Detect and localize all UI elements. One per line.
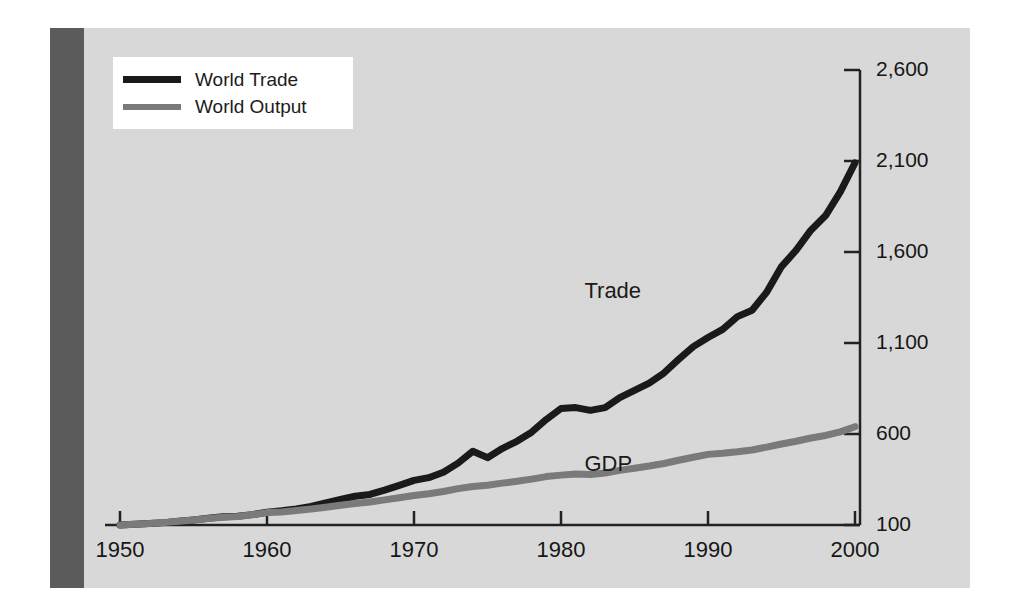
- x-tick-label-1980: 1980: [521, 539, 601, 561]
- series-line-world-trade: [120, 163, 855, 525]
- y-tick-label-600: 600: [876, 422, 911, 443]
- y-axis-ticks: [844, 70, 860, 525]
- y-tick-label-1100: 1,100: [876, 331, 929, 352]
- y-tick-label-100: 100: [876, 513, 911, 534]
- y-tick-label-2100: 2,100: [876, 149, 929, 170]
- legend: World Trade World Output: [113, 57, 353, 129]
- x-tick-label-1960: 1960: [227, 539, 307, 561]
- series-line-world-output: [120, 427, 855, 525]
- y-tick-label-1600: 1,600: [876, 240, 929, 261]
- x-tick-label-1970: 1970: [374, 539, 454, 561]
- legend-label-world-trade: World Trade: [195, 70, 298, 90]
- y-tick-label-2600: 2,600: [876, 58, 929, 79]
- x-tick-label-1950: 1950: [80, 539, 160, 561]
- legend-swatch-world-trade: [123, 76, 181, 83]
- legend-item-world-trade: World Trade: [123, 66, 353, 93]
- data-series-group: [120, 163, 855, 525]
- annotation-trade: Trade: [584, 280, 641, 302]
- legend-label-world-output: World Output: [195, 97, 307, 117]
- annotation-gdp: GDP: [584, 453, 632, 475]
- legend-swatch-world-output: [123, 104, 181, 110]
- legend-item-world-output: World Output: [123, 93, 353, 120]
- x-tick-label-1990: 1990: [668, 539, 748, 561]
- chart-figure: 1006001,1001,6002,1002,600 1950196019701…: [50, 28, 970, 588]
- x-tick-label-2000: 2000: [815, 539, 895, 561]
